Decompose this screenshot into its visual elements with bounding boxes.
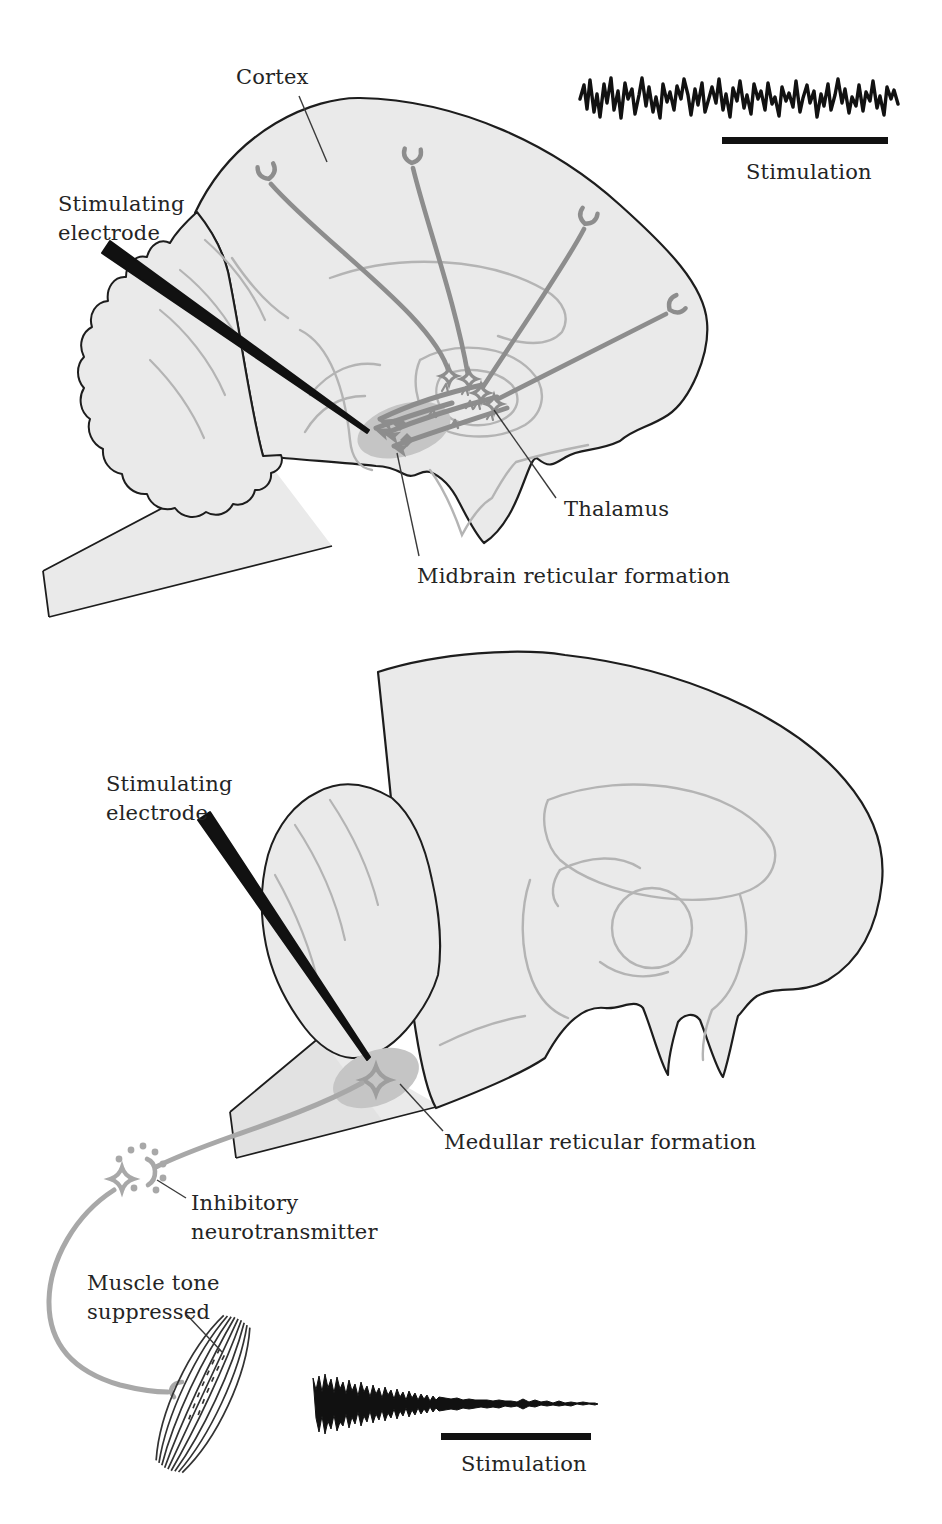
figure-page: Cortex Stimulating electrode Thalamus Mi… [0, 0, 942, 1524]
emg-trace [313, 1374, 598, 1434]
leader-line-inhibitory [157, 1180, 186, 1198]
label-inhibitory-line1: Inhibitory [191, 1191, 298, 1215]
label-muscle-tone-line1: Muscle tone [87, 1271, 220, 1295]
label-cortex: Cortex [236, 65, 309, 89]
label-inhibitory-line2: neurotransmitter [191, 1220, 378, 1244]
label-thalamus: Thalamus [564, 497, 669, 521]
label-stimulating-electrode-line2: electrode [58, 221, 160, 245]
motor-neuron-icon [110, 1167, 133, 1190]
label-stimulating-electrode-line2: electrode [106, 801, 208, 825]
figure-canvas: Cortex Stimulating electrode Thalamus Mi… [0, 0, 942, 1524]
stimulation-bar [441, 1433, 591, 1440]
top-panel: Cortex Stimulating electrode Thalamus Mi… [43, 65, 898, 617]
synapse-cup-icon [147, 1159, 155, 1185]
label-muscle-tone-line2: suppressed [87, 1300, 210, 1324]
label-medullar-rf: Medullar reticular formation [444, 1130, 756, 1154]
eeg-trace [580, 78, 898, 118]
label-stimulating-electrode-line1: Stimulating [106, 772, 233, 796]
bottom-panel: Stimulating electrode Medullar reticular… [49, 652, 883, 1481]
cerebellum-bottom [262, 784, 440, 1058]
stimulation-bar [722, 137, 888, 144]
label-stimulation-top: Stimulation [746, 160, 872, 184]
label-stimulating-electrode-line1: Stimulating [58, 192, 185, 216]
label-midbrain-rf: Midbrain reticular formation [417, 564, 730, 588]
label-stimulation-bottom: Stimulation [461, 1452, 587, 1476]
